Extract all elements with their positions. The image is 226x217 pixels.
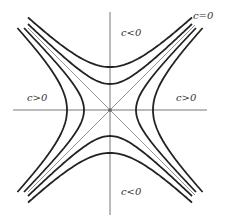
hyperbola-diagram: c<0c=0c>0c>0c<0 [0,0,226,217]
label-left: c>0 [27,92,48,103]
label-top: c<0 [121,27,142,38]
label-topright: c=0 [193,10,214,21]
asymptote-line [28,25,195,192]
label-right: c>0 [176,92,197,103]
asymptote-line [28,28,195,195]
label-bottom: c<0 [121,186,142,197]
